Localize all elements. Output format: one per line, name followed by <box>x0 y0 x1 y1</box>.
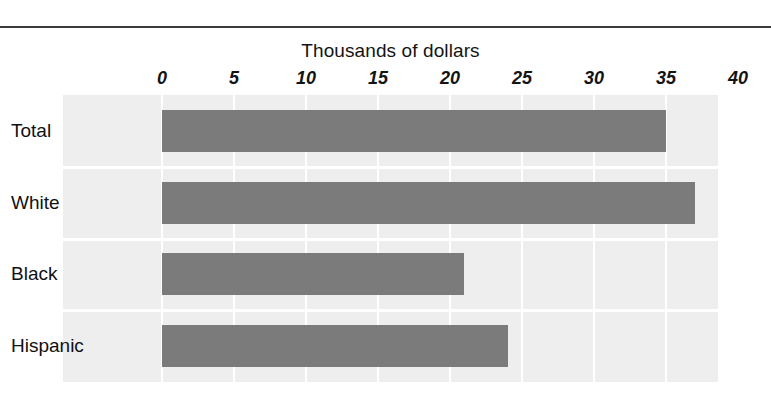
header-divider <box>0 26 771 28</box>
x-tick-label-20: 20 <box>440 68 460 89</box>
x-tick-label-35: 35 <box>656 68 676 89</box>
chart-title: Thousands of dollars <box>63 40 718 62</box>
x-tick-label-30: 30 <box>584 68 604 89</box>
bar-white <box>162 182 695 224</box>
plot-area <box>63 95 718 382</box>
bar-total <box>162 110 666 152</box>
row-separator-2 <box>63 309 718 312</box>
category-label-black: Black <box>11 263 57 285</box>
x-tick-label-40: 40 <box>728 68 748 89</box>
x-tick-label-15: 15 <box>368 68 388 89</box>
x-tick-label-5: 5 <box>229 68 239 89</box>
x-tick-label-0: 0 <box>157 68 167 89</box>
row-separator-0 <box>63 166 718 169</box>
x-tick-label-10: 10 <box>296 68 316 89</box>
category-label-total: Total <box>11 120 51 142</box>
row-separator-1 <box>63 238 718 241</box>
x-tick-label-25: 25 <box>512 68 532 89</box>
category-label-hispanic: Hispanic <box>11 335 84 357</box>
x-axis-tick-labels: 0510152025303540 <box>0 68 771 94</box>
bar-black <box>162 253 464 295</box>
chart-figure: Thousands of dollars 0510152025303540 To… <box>0 0 771 402</box>
category-label-white: White <box>11 192 60 214</box>
bar-hispanic <box>162 325 508 367</box>
